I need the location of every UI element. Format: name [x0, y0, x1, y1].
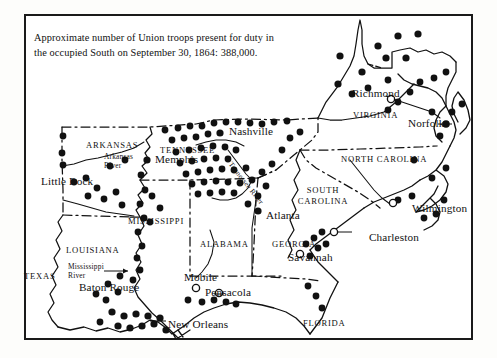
- city-label-nashville: Nashville: [229, 125, 273, 137]
- city-label-baton-rouge-text: Baton Rouge: [79, 281, 139, 293]
- west-virginia-outline: [318, 20, 456, 120]
- state-label-virginia: VIRGINIA: [353, 110, 398, 120]
- city-label-little-rock: Little Rock: [41, 175, 85, 187]
- border-arkansas-south: [63, 215, 130, 217]
- state-label-mississippi: MISSISSIPPI: [128, 216, 184, 226]
- city-label-pensacola: Pensacola: [205, 286, 251, 298]
- river-label-arkansas: ArkansasRiver: [104, 152, 150, 170]
- city-label-mobile: Mobile: [184, 271, 217, 283]
- city-label-charleston: Charleston: [369, 231, 419, 243]
- leader-arrow-mississippi: [123, 268, 128, 273]
- marker-wilmington: [389, 199, 396, 206]
- city-label-norfolk: Norfolk: [408, 117, 444, 129]
- state-label-north-carolina: NORTH CAROLINA: [341, 154, 427, 164]
- state-label-arkansas: ARKANSAS: [86, 140, 138, 150]
- border-georgia-florida: [252, 276, 320, 281]
- state-label-florida: FLORIDA: [303, 318, 346, 328]
- city-label-memphis: Memphis: [155, 153, 198, 165]
- state-label-alabama: ALABAMA: [200, 239, 249, 249]
- river-label-mississippi: MississippiRiver: [68, 262, 118, 280]
- state-label-texas: TEXAS: [24, 271, 55, 281]
- border-virginia-northcarolina: [300, 146, 437, 150]
- river-label-arkansas-text: ArkansasRiver: [104, 152, 133, 170]
- map-caption: Approximate number of Union troops prese…: [34, 31, 304, 60]
- state-label-south-carolina: SOUTHCAROLINA: [295, 185, 351, 206]
- city-label-wilmington: Wilmington: [412, 202, 467, 214]
- coast-virginia-north: [398, 74, 446, 106]
- state-label-south-carolina-text: SOUTHCAROLINA: [298, 185, 348, 206]
- border-west-virginia-north: [318, 20, 456, 118]
- union-troops-map-figure: Approximate number of Union troops prese…: [0, 0, 497, 358]
- border-arkansas-west: [62, 127, 63, 215]
- state-label-georgia: GEORGIA: [272, 239, 316, 249]
- state-label-louisiana: LOUISIANA: [66, 245, 120, 255]
- city-label-new-orleans: New Orleans: [168, 318, 228, 330]
- city-label-savannah: Savannah: [288, 251, 333, 263]
- city-label-richmond: Richmond: [352, 87, 400, 99]
- city-label-baton-rouge: Baton Rouge: [79, 281, 127, 293]
- city-label-little-rock-text: Little Rock: [41, 175, 93, 187]
- marker-charleston: [330, 228, 337, 235]
- river-label-mississippi-text: MississippiRiver: [68, 262, 104, 280]
- city-label-atlanta: Atlanta: [266, 209, 300, 221]
- marker-mobile: [192, 284, 199, 291]
- caption-line-2: the occupied South on September 30, 1864…: [34, 46, 304, 61]
- border-virginia-east-upper: [446, 62, 456, 106]
- caption-line-1: Approximate number of Union troops prese…: [34, 31, 304, 46]
